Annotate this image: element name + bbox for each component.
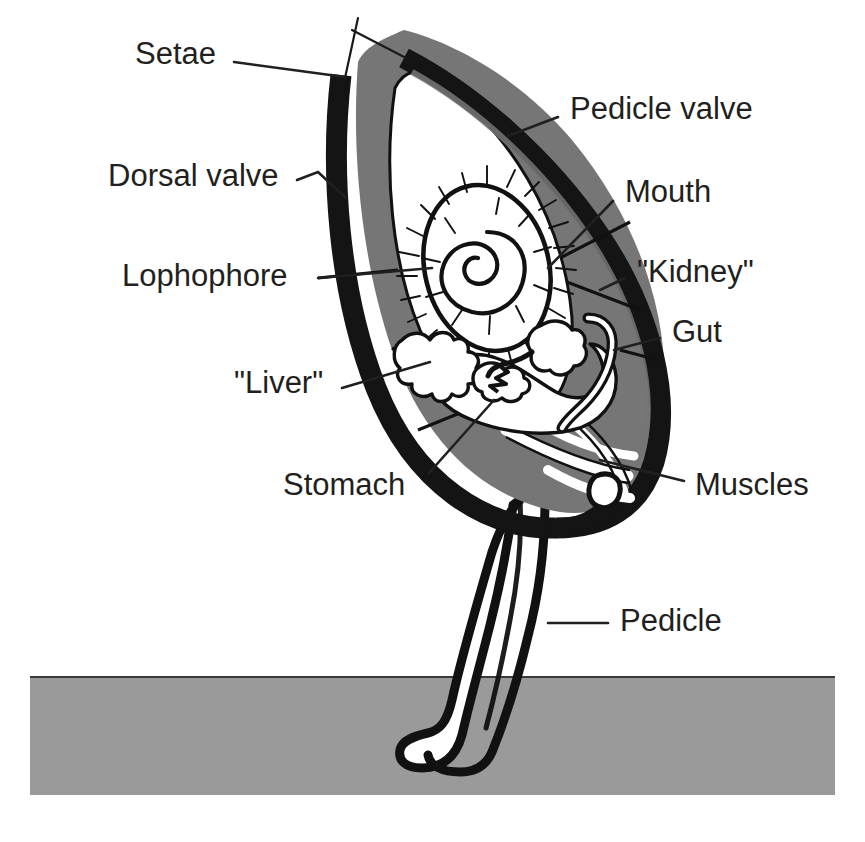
leader-setae	[234, 62, 345, 77]
label-mouth: Mouth	[625, 174, 711, 209]
label-pedicle: Pedicle	[620, 603, 722, 638]
label-pedicle-valve: Pedicle valve	[570, 91, 753, 126]
label-gut: Gut	[672, 314, 722, 349]
brachiopod-anatomy-figure: Setae Dorsal valve Lophophore "Liver" St…	[0, 0, 865, 842]
label-setae: Setae	[135, 36, 216, 71]
label-lophophore: Lophophore	[122, 258, 288, 293]
liver-lobes	[394, 333, 479, 402]
diagram-canvas: Setae Dorsal valve Lophophore "Liver" St…	[0, 0, 865, 842]
label-dorsal-valve: Dorsal valve	[108, 158, 279, 193]
label-muscles: Muscles	[695, 467, 809, 502]
label-liver: "Liver"	[234, 365, 323, 400]
hinge-knob	[589, 474, 620, 508]
label-kidney: "Kidney"	[637, 254, 754, 289]
kidney-organ	[528, 321, 587, 375]
label-stomach: Stomach	[283, 467, 405, 502]
